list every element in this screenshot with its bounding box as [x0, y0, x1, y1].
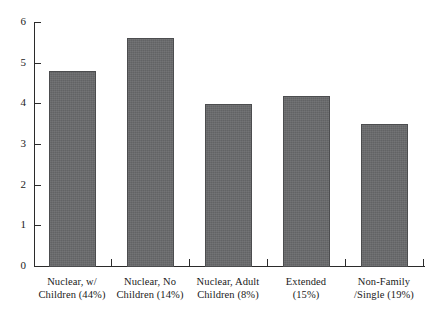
- x-axis-category-label-2-line1: Nuclear, No: [124, 276, 176, 287]
- bar-chart: 6 5 4 3 2 1 0 Nuclear, w/ Children (44%)…: [0, 0, 445, 318]
- x-axis-category-label-3: Nuclear, Adult Children (8%): [189, 276, 267, 301]
- bar-nuclear-with-children[interactable]: [49, 71, 96, 267]
- x-axis-category-label-1-line1: Nuclear, w/: [47, 276, 97, 287]
- x-axis-category-label-3-line1: Nuclear, Adult: [197, 276, 260, 287]
- x-axis-category-label-1: Nuclear, w/ Children (44%): [33, 276, 111, 301]
- x-axis-category-label-4-line2: (15%): [267, 289, 345, 302]
- y-axis-label-3: 3: [0, 138, 26, 149]
- x-axis-category-label-1-line2: Children (44%): [33, 289, 111, 302]
- x-axis-category-label-5: Non-Family /Single (19%): [345, 276, 423, 301]
- y-axis-label-0: 0: [0, 260, 26, 271]
- bar-nuclear-adult-children[interactable]: [205, 104, 252, 267]
- bar-non-family-single[interactable]: [361, 124, 408, 267]
- x-axis-category-label-5-line1: Non-Family: [358, 276, 410, 287]
- x-axis-category-label-2-line2: Children (14%): [111, 289, 189, 302]
- y-axis-label-2: 2: [0, 179, 26, 190]
- x-axis-category-label-3-line2: Children (8%): [189, 289, 267, 302]
- plot-area: [34, 22, 424, 267]
- x-axis-category-label-4: Extended (15%): [267, 276, 345, 301]
- y-axis-label-1: 1: [0, 219, 26, 230]
- y-axis-label-6: 6: [0, 16, 26, 27]
- bar-extended[interactable]: [283, 96, 330, 268]
- x-axis-category-label-2: Nuclear, No Children (14%): [111, 276, 189, 301]
- y-axis-label-5: 5: [0, 57, 26, 68]
- x-axis-category-label-4-line1: Extended: [286, 276, 326, 287]
- bar-nuclear-no-children[interactable]: [127, 38, 174, 267]
- x-axis-category-label-5-line2: /Single (19%): [345, 289, 423, 302]
- y-axis-label-4: 4: [0, 97, 26, 108]
